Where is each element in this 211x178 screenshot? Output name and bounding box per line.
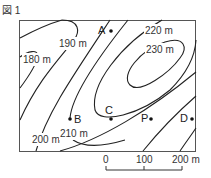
- contour-label-210: 210 m: [60, 128, 88, 139]
- contour-line: [143, 96, 196, 151]
- contour-label-220: 220 m: [145, 25, 173, 36]
- point-B-marker: [68, 117, 72, 121]
- contour-label-230: 230 m: [146, 44, 174, 55]
- contour-line: [20, 20, 78, 120]
- point-A-marker: [109, 29, 113, 33]
- point-D-label: D: [180, 112, 188, 124]
- point-A-label: A: [98, 24, 106, 36]
- point-P-label: P: [141, 112, 148, 124]
- contour-line: [20, 20, 62, 38]
- point-C-marker: [109, 117, 113, 121]
- scale-tick-0: 0: [103, 154, 109, 165]
- point-P-marker: [149, 117, 153, 121]
- contour-label-180: 180 m: [23, 54, 51, 65]
- scale-tick-100: 100: [136, 154, 153, 165]
- point-B-label: B: [74, 113, 81, 125]
- contour-label-190: 190 m: [59, 38, 87, 49]
- point-C-label: C: [105, 104, 113, 116]
- contour-label-200: 200 m: [32, 134, 60, 145]
- scale-tick-200: 200 m: [172, 154, 200, 165]
- contour-map: 180 m 190 m 200 m 210 m 220 m 230 m A B …: [0, 0, 211, 178]
- point-D-marker: [190, 117, 194, 121]
- contour-line: [180, 128, 196, 151]
